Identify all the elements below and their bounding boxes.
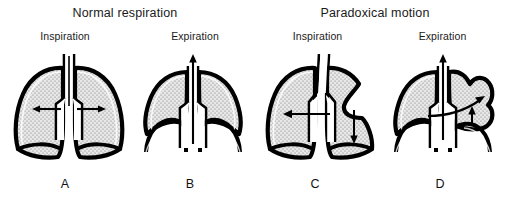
phase-label-c-inspiration: Inspiration [270,30,365,42]
panel-letter-d: D [415,177,465,191]
phase-label-d-expiration: Expiration [395,30,490,42]
panel-letter-b: B [165,177,215,191]
figure-panel-d [380,52,505,174]
figure-panel-b [130,52,256,174]
panel-letter-c: C [290,177,340,191]
figure-panel-a [6,52,132,174]
phase-label-b-expiration: Expiration [150,30,240,42]
group-title-paradoxical-motion: Paradoxical motion [300,6,450,20]
figure-panel-c [258,52,384,174]
diagram-canvas: Normal respiration Paradoxical motion In… [0,0,505,207]
panel-letter-a: A [40,177,90,191]
phase-label-a-inspiration: Inspiration [20,30,110,42]
group-title-normal-respiration: Normal respiration [55,6,195,20]
